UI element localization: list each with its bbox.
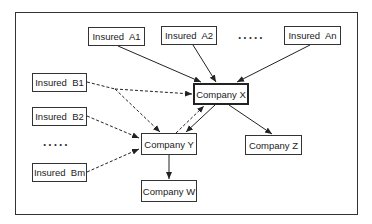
node-insured-bm: Insured Bm xyxy=(32,163,87,182)
node-insured-b1: Insured B1 xyxy=(32,73,87,92)
edge-b1-branch xyxy=(87,82,115,89)
node-company-w: Company W xyxy=(141,180,197,202)
edge-a1-x xyxy=(118,46,201,82)
edge-b1-y xyxy=(115,89,160,132)
diagram-canvas: Insured A1 Insured A2 Insured An Insured… xyxy=(0,0,372,224)
edge-bm-y xyxy=(87,149,139,172)
node-insured-a2: Insured A2 xyxy=(161,26,217,45)
node-company-x: Company X xyxy=(193,83,249,105)
node-insured-an: Insured An xyxy=(284,26,341,45)
ellipsis-insured-b: ..... xyxy=(43,137,70,147)
node-company-z: Company Z xyxy=(245,135,302,155)
edge-b1-x xyxy=(115,89,192,94)
node-company-y: Company Y xyxy=(141,133,197,155)
node-insured-b2: Insured B2 xyxy=(32,107,87,126)
edge-a2-x xyxy=(193,45,216,82)
edge-x-z xyxy=(229,105,272,134)
edge-b2-y xyxy=(87,116,139,138)
node-insured-a1: Insured A1 xyxy=(88,27,145,46)
edge-an-x xyxy=(237,45,310,82)
ellipsis-insured-a: ..... xyxy=(238,30,265,40)
